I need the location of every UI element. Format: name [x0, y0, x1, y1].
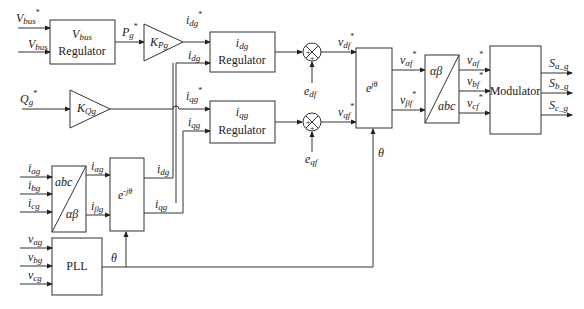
theta-label-2: θ [378, 146, 384, 160]
svg-text:αβ: αβ [66, 207, 78, 221]
iqg-regulator-block: iqg Regulator [210, 101, 275, 143]
summer-d: + + [303, 43, 321, 63]
vbus-regulator-block: Vbus Regulator [50, 20, 115, 64]
svg-text:PLL: PLL [66, 259, 87, 273]
sag-label: Sa_g [549, 56, 569, 71]
idg-fb-label: idg [157, 162, 170, 177]
ibetag-label: iβg [91, 199, 104, 214]
vqf-ref-label: vqf* [338, 102, 354, 120]
pll-block: PLL [52, 238, 102, 295]
iqg-ref-line [110, 106, 210, 109]
theta-label: θ [111, 251, 117, 265]
vbetaf-ref-label: vβf* [400, 90, 416, 108]
iqg-ref-label: iqg* [186, 86, 202, 104]
inverse-park-block: ejθ [356, 48, 392, 128]
control-block-diagram: Vbus Regulator Vbus* Vbus Pg* KPg idg* Q… [0, 0, 584, 309]
vbus-ref-label: Vbus* [16, 8, 40, 26]
iqg-fb-label: iqg [155, 197, 168, 212]
svg-text:αβ: αβ [430, 64, 442, 78]
iqg-feedback-line [183, 131, 210, 213]
svg-text:abc: abc [438, 99, 456, 113]
idg-regulator-block: idg Regulator [210, 32, 275, 72]
svg-text:Modulator: Modulator [490, 84, 541, 98]
icg-label: icg [28, 196, 40, 211]
idg-ref-label: idg* [186, 10, 202, 28]
vbf-ref-label: vbf* [467, 71, 483, 89]
vdf-ref-label: vdf* [338, 32, 354, 50]
summer-q: + + [303, 113, 321, 133]
alphabeta-to-abc-block: αβ abc [425, 55, 459, 123]
iqg-label: iqg [188, 115, 201, 130]
sbg-label: Sb_g [549, 76, 569, 91]
valphaf-ref-label: vαf* [400, 50, 417, 68]
modulator-block: Modulator [490, 46, 541, 134]
ibg-label: ibg [28, 178, 41, 193]
pg-ref-label: Pg* [121, 22, 138, 40]
vcf-ref-label: vcf* [467, 93, 483, 111]
ialphag-label: iαg [91, 159, 104, 174]
eqf-label: eqf [305, 152, 319, 167]
qg-ref-label: Qg* [20, 89, 37, 107]
scg-label: Sc_g [549, 98, 568, 113]
svg-text:Regulator: Regulator [58, 44, 105, 58]
park-transform-block: e-jθ [110, 158, 144, 231]
idg-fb-route [144, 63, 173, 178]
idg-feedback-line [176, 63, 210, 203]
svg-text:Regulator: Regulator [218, 123, 265, 137]
svg-text:+: + [310, 54, 315, 63]
svg-text:+: + [310, 124, 315, 133]
abc-to-alphabeta-block: abc αβ [52, 166, 86, 232]
svg-text:abc: abc [55, 175, 73, 189]
svg-text:Regulator: Regulator [218, 53, 265, 67]
vaf-ref-label: vaf* [467, 50, 483, 68]
vbg-label: vbg [28, 250, 43, 265]
idg-label: idg [188, 48, 201, 63]
edf-label: edf [304, 84, 318, 99]
kpg-gain-block: KPg [144, 24, 183, 61]
vag-label: vag [28, 232, 43, 247]
iag-label: iag [28, 161, 41, 176]
vbus-label: Vbus [28, 37, 48, 52]
vcg-label: vcg [28, 268, 42, 283]
kqg-gain-block: KQg [70, 90, 110, 128]
